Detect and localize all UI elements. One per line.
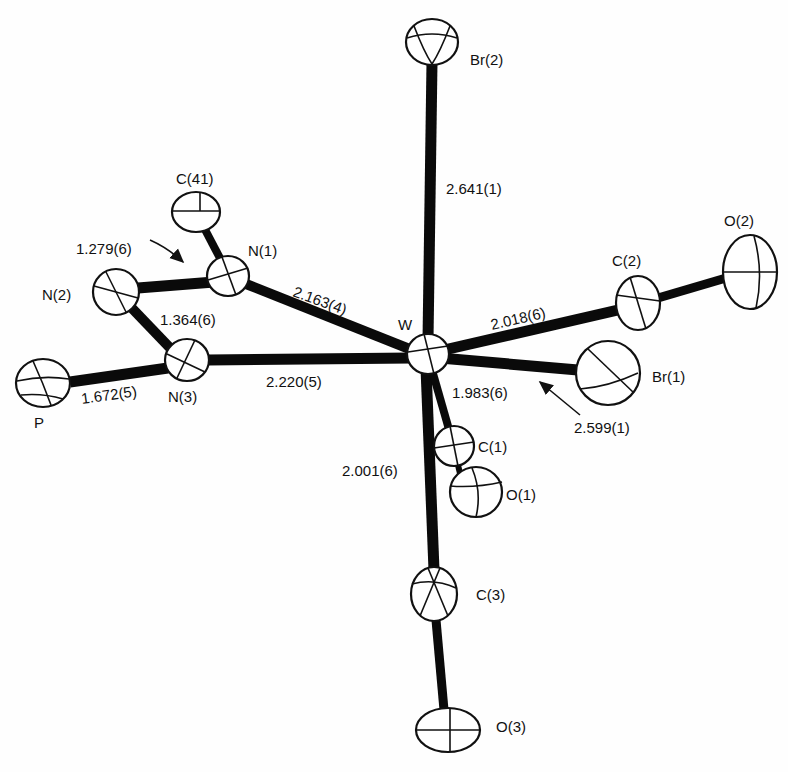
- label-c41: C(41): [176, 170, 214, 187]
- length-w-c1: 1.983(6): [452, 384, 508, 401]
- length-w-c3: 2.001(6): [342, 462, 398, 479]
- label-p: P: [34, 414, 44, 431]
- atom-c3: [411, 567, 457, 621]
- atom-n1: [207, 256, 249, 296]
- arrow-n1-n2-label: [150, 240, 183, 262]
- atom-br2: [406, 19, 458, 65]
- label-o3: O(3): [496, 718, 526, 735]
- bond-w-n3: [208, 358, 412, 360]
- atom-br1: [576, 341, 640, 405]
- atom-n2: [93, 269, 139, 315]
- label-c3: C(3): [476, 586, 505, 603]
- arrow-br1-label: [540, 382, 580, 415]
- length-w-br1: 2.599(1): [574, 419, 630, 436]
- ortep-diagram: Br(2) C(41) N(1) N(2) N(3) P W C(2) O(2)…: [0, 0, 788, 772]
- bond-c2-o2: [658, 278, 726, 298]
- label-n1: N(1): [248, 242, 277, 259]
- length-n3-p: 1.672(5): [80, 382, 138, 407]
- atom-o3: [416, 708, 480, 752]
- atom-o1: [450, 467, 502, 517]
- atom-o2: [723, 235, 777, 309]
- label-n2: N(2): [42, 286, 71, 303]
- bond-c3-o3: [436, 620, 444, 710]
- bond-w-c3: [426, 368, 434, 570]
- label-n3: N(3): [168, 388, 197, 405]
- atom-n3: [165, 339, 209, 381]
- atom-p: [16, 359, 70, 407]
- label-o1: O(1): [506, 486, 536, 503]
- bond-w-br2: [428, 62, 432, 340]
- bond-n3-p: [70, 368, 168, 382]
- atom-c2: [616, 276, 660, 330]
- bond-n1-n2: [138, 282, 214, 288]
- atom-w: [407, 334, 449, 374]
- label-br2: Br(2): [470, 51, 503, 68]
- label-c2: C(2): [612, 252, 641, 269]
- atom-c41: [172, 192, 220, 232]
- length-w-br2: 2.641(1): [446, 180, 502, 197]
- atom-c1: [434, 426, 474, 466]
- length-n1-n2: 1.279(6): [76, 240, 132, 257]
- length-w-n3: 2.220(5): [266, 373, 322, 390]
- length-n2-n3: 1.364(6): [160, 311, 216, 328]
- label-br1: Br(1): [652, 368, 685, 385]
- bond-w-br1: [440, 358, 578, 370]
- label-o2: O(2): [724, 212, 754, 229]
- label-c1: C(1): [478, 438, 507, 455]
- label-w: W: [398, 316, 413, 333]
